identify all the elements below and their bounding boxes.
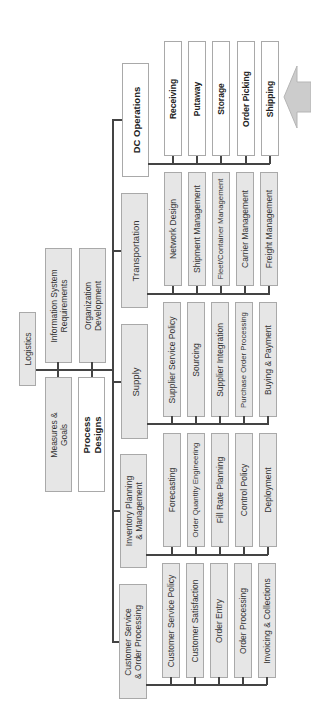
logistics-label: Logistics	[23, 332, 33, 365]
activity-bus	[146, 554, 268, 556]
function-supply: Supply	[121, 324, 148, 439]
activity-receiving: Receiving	[164, 41, 182, 156]
activity-control-policy: Control Policy	[235, 433, 253, 547]
activity-order-entry: Order Entry	[210, 563, 228, 678]
activity-freight-management: Freight Management	[260, 172, 278, 286]
activity-label: Shipping	[265, 80, 275, 116]
activity-putaway: Putaway	[188, 41, 206, 156]
activity-label: Putaway	[192, 81, 202, 116]
logistics-connector	[36, 369, 113, 371]
organization-development-label: Organization Development	[83, 280, 103, 330]
activity-shipment-management: Shipment Management	[188, 172, 206, 286]
activity-buying-payment: Buying & Payment	[259, 302, 277, 417]
activity-label: Deployment	[263, 467, 273, 512]
highlight-arrow-icon	[280, 62, 311, 134]
info-system-requirements-box: Information System Requirements	[45, 248, 72, 363]
activity-fill-rate-planning: Fill Rate Planning	[211, 433, 229, 547]
activity-network-design: Network Design	[164, 172, 182, 286]
activity-forecasting: Forecasting	[163, 433, 181, 547]
activity-label: Shipment Management	[192, 185, 202, 273]
activity-label: Order Processing	[238, 587, 248, 653]
activity-label: Network Design	[168, 199, 178, 259]
activity-bus	[148, 163, 270, 165]
activity-customer-satisfaction: Customer Satisfaction	[186, 563, 204, 678]
activity-label: Customer Service Policy	[166, 574, 176, 667]
activity-bus	[146, 684, 267, 686]
activity-customer-service-policy: Customer Service Policy	[162, 563, 180, 678]
activity-bus	[147, 423, 269, 425]
activity-supplier-integration: Supplier Integration	[211, 302, 229, 417]
activity-label: Customer Satisfaction	[190, 579, 200, 662]
function-transportation: Transportation	[121, 193, 148, 308]
activity-label: Freight Management	[264, 190, 274, 268]
activity-label: Order Picking	[241, 71, 251, 127]
logistics-box: Logistics	[19, 312, 36, 386]
info-system-requirements-label: Information System Requirements	[49, 269, 69, 342]
branch-transportation	[112, 250, 121, 252]
function-label: Transportation	[129, 220, 140, 281]
connector-stub	[57, 362, 59, 377]
activity-label: Fill Rate Planning	[215, 457, 225, 524]
activity-label: Invoicing & Collections	[262, 578, 272, 664]
activity-fleet-container-management: Fleet/Container Management	[212, 172, 230, 286]
organization-development-box: Organization Development	[79, 248, 106, 363]
activity-order-picking: Order Picking	[237, 41, 255, 156]
process-designs-box: Process Designs	[78, 377, 105, 492]
measures-goals-label: Measures & Goals	[49, 412, 69, 457]
activity-label: Forecasting	[167, 468, 177, 512]
activity-carrier-management: Carrier Management	[236, 172, 254, 286]
activity-order-quantity-engineering: Order Quantity Engineering	[187, 433, 205, 547]
measures-goals-box: Measures & Goals	[45, 377, 72, 492]
activity-supplier-service-policy: Supplier Service Policy	[163, 302, 181, 417]
activity-sourcing: Sourcing	[187, 302, 205, 417]
activity-label: Receiving	[168, 78, 178, 118]
process-designs-label: Process Designs	[81, 416, 103, 453]
activity-shipping: Shipping	[261, 41, 279, 156]
function-label: Customer Service & Order Processing	[123, 604, 143, 678]
function-dc-operations: DC Operations	[122, 63, 149, 177]
activity-storage: Storage	[212, 41, 230, 156]
activity-purchase-order-processing: Purchase Order Processing	[235, 302, 253, 417]
activity-label: Sourcing	[191, 343, 201, 377]
function-inventory-planning: Inventory Planning & Management	[120, 454, 147, 568]
activity-order-processing: Order Processing	[234, 563, 252, 678]
activity-label: Order Quantity Engineering	[191, 443, 201, 538]
connector-stub	[91, 362, 93, 377]
activity-label: Control Policy	[239, 464, 249, 516]
activity-label: Storage	[216, 83, 226, 115]
activity-bus	[147, 293, 270, 295]
activity-label: Supplier Integration	[215, 323, 225, 397]
function-label: Inventory Planning & Management	[124, 476, 144, 546]
activity-label: Supplier Service Policy	[167, 316, 177, 403]
branch-supply	[112, 381, 121, 383]
activity-label: Fleet/Container Management	[216, 179, 226, 280]
activity-invoicing-collections: Invoicing & Collections	[258, 563, 276, 678]
function-label: DC Operations	[130, 87, 141, 154]
function-customer-service: Customer Service & Order Processing	[119, 584, 147, 699]
activity-deployment: Deployment	[259, 433, 277, 547]
branch-dc	[112, 119, 122, 121]
activity-label: Order Entry	[214, 599, 224, 643]
activity-label: Carrier Management	[240, 190, 250, 268]
activity-label: Buying & Payment	[263, 325, 273, 395]
function-label: Supply	[129, 367, 140, 396]
activity-label: Purchase Order Processing	[239, 312, 249, 408]
